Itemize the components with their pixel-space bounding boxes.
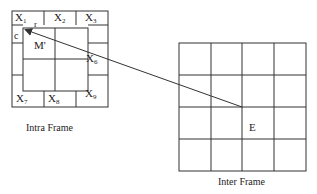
label-x7: X7: [16, 93, 27, 106]
inter-frame-grid: [179, 43, 306, 171]
label-x8: X8: [48, 93, 59, 106]
label-x9: X9: [85, 88, 96, 101]
label-x3: X3: [85, 12, 96, 25]
label-x1: X1: [15, 12, 26, 25]
inter-frame-caption: Inter Frame: [218, 176, 265, 187]
label-e: E: [249, 122, 256, 133]
label-r: r: [34, 20, 37, 29]
label-m-prime: M': [34, 40, 46, 51]
label-c: c: [14, 31, 18, 41]
label-x2: X2: [54, 12, 65, 25]
intra-frame-caption: Intra Frame: [26, 122, 73, 133]
label-x6: X6: [86, 53, 97, 66]
